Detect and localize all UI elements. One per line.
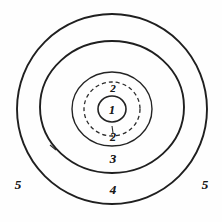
zone-label-4: 4 [110, 183, 117, 196]
zone-label-5-right: 5 [202, 178, 209, 191]
zone-label-3: 3 [110, 152, 117, 165]
zone-label-2-bottom: 2 [110, 131, 116, 143]
zone-label-1: 1 [109, 104, 115, 116]
zone-label-5-left: 5 [15, 178, 22, 191]
zone-label-2-top: 2 [110, 83, 116, 94]
diagram-canvas: 1 2 2 3 4 5 5 [0, 0, 222, 222]
